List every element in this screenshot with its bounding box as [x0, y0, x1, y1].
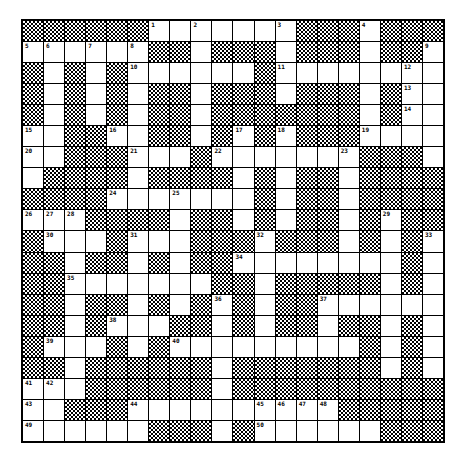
answer-cell[interactable]: [212, 316, 232, 336]
answer-cell[interactable]: [65, 337, 85, 357]
answer-cell[interactable]: [212, 421, 232, 441]
answer-cell[interactable]: 36: [212, 295, 232, 315]
answer-cell[interactable]: 38: [107, 316, 127, 336]
answer-cell[interactable]: 6: [44, 42, 64, 62]
answer-cell[interactable]: [191, 189, 211, 209]
answer-cell[interactable]: [212, 63, 232, 83]
answer-cell[interactable]: [381, 358, 401, 378]
answer-cell[interactable]: [149, 189, 169, 209]
answer-cell[interactable]: 2: [191, 21, 211, 41]
answer-cell[interactable]: 45: [255, 400, 275, 420]
answer-cell[interactable]: [149, 147, 169, 167]
answer-cell[interactable]: [381, 253, 401, 273]
answer-cell[interactable]: [255, 274, 275, 294]
answer-cell[interactable]: [318, 316, 338, 336]
answer-cell[interactable]: [86, 105, 106, 125]
answer-cell[interactable]: 37: [318, 295, 338, 315]
answer-cell[interactable]: [276, 84, 296, 104]
answer-cell[interactable]: [86, 337, 106, 357]
answer-cell[interactable]: [423, 358, 443, 378]
answer-cell[interactable]: [402, 295, 422, 315]
answer-cell[interactable]: [212, 379, 232, 399]
answer-cell[interactable]: 28: [65, 210, 85, 230]
answer-cell[interactable]: [107, 421, 127, 441]
answer-cell[interactable]: [170, 231, 190, 251]
answer-cell[interactable]: [233, 168, 253, 188]
answer-cell[interactable]: [128, 168, 148, 188]
answer-cell[interactable]: [23, 168, 43, 188]
answer-cell[interactable]: [170, 253, 190, 273]
answer-cell[interactable]: 46: [276, 400, 296, 420]
answer-cell[interactable]: [381, 295, 401, 315]
answer-cell[interactable]: 20: [23, 147, 43, 167]
answer-cell[interactable]: [191, 337, 211, 357]
answer-cell[interactable]: [276, 337, 296, 357]
answer-cell[interactable]: [360, 105, 380, 125]
answer-cell[interactable]: 11: [276, 63, 296, 83]
answer-cell[interactable]: [128, 126, 148, 146]
answer-cell[interactable]: [128, 421, 148, 441]
answer-cell[interactable]: 27: [44, 210, 64, 230]
answer-cell[interactable]: [381, 337, 401, 357]
answer-cell[interactable]: [276, 168, 296, 188]
answer-cell[interactable]: [318, 147, 338, 167]
answer-cell[interactable]: [339, 189, 359, 209]
answer-cell[interactable]: [170, 210, 190, 230]
answer-cell[interactable]: [191, 105, 211, 125]
answer-cell[interactable]: [255, 295, 275, 315]
answer-cell[interactable]: [255, 147, 275, 167]
answer-cell[interactable]: [423, 147, 443, 167]
answer-cell[interactable]: 29: [381, 210, 401, 230]
answer-cell[interactable]: [149, 231, 169, 251]
answer-cell[interactable]: [233, 337, 253, 357]
answer-cell[interactable]: 19: [360, 126, 380, 146]
answer-cell[interactable]: [339, 168, 359, 188]
answer-cell[interactable]: [149, 400, 169, 420]
answer-cell[interactable]: 3: [276, 21, 296, 41]
answer-cell[interactable]: [86, 274, 106, 294]
answer-cell[interactable]: 13: [402, 84, 422, 104]
answer-cell[interactable]: [212, 337, 232, 357]
answer-cell[interactable]: [191, 400, 211, 420]
answer-cell[interactable]: [381, 316, 401, 336]
answer-cell[interactable]: [233, 400, 253, 420]
answer-cell[interactable]: 30: [44, 231, 64, 251]
answer-cell[interactable]: [191, 126, 211, 146]
answer-cell[interactable]: [65, 421, 85, 441]
answer-cell[interactable]: [170, 400, 190, 420]
answer-cell[interactable]: [423, 316, 443, 336]
answer-cell[interactable]: 48: [318, 400, 338, 420]
answer-cell[interactable]: [107, 42, 127, 62]
answer-cell[interactable]: 31: [128, 231, 148, 251]
answer-cell[interactable]: [149, 63, 169, 83]
answer-cell[interactable]: [255, 21, 275, 41]
answer-cell[interactable]: [44, 147, 64, 167]
answer-cell[interactable]: [423, 337, 443, 357]
answer-cell[interactable]: [423, 63, 443, 83]
answer-cell[interactable]: [381, 63, 401, 83]
answer-cell[interactable]: [65, 316, 85, 336]
answer-cell[interactable]: 39: [44, 337, 64, 357]
answer-cell[interactable]: [423, 253, 443, 273]
answer-cell[interactable]: [170, 63, 190, 83]
answer-cell[interactable]: [65, 231, 85, 251]
answer-cell[interactable]: [339, 337, 359, 357]
answer-cell[interactable]: [212, 21, 232, 41]
answer-cell[interactable]: [128, 295, 148, 315]
answer-cell[interactable]: 18: [276, 126, 296, 146]
answer-cell[interactable]: 43: [23, 400, 43, 420]
answer-cell[interactable]: [276, 421, 296, 441]
answer-cell[interactable]: [402, 126, 422, 146]
answer-cell[interactable]: 49: [23, 421, 43, 441]
answer-cell[interactable]: 9: [423, 42, 443, 62]
answer-cell[interactable]: [107, 274, 127, 294]
answer-cell[interactable]: [255, 337, 275, 357]
answer-cell[interactable]: [65, 253, 85, 273]
answer-cell[interactable]: [170, 295, 190, 315]
answer-cell[interactable]: 14: [402, 105, 422, 125]
answer-cell[interactable]: [170, 274, 190, 294]
answer-cell[interactable]: 25: [170, 189, 190, 209]
answer-cell[interactable]: [128, 105, 148, 125]
answer-cell[interactable]: [191, 63, 211, 83]
answer-cell[interactable]: 21: [128, 147, 148, 167]
